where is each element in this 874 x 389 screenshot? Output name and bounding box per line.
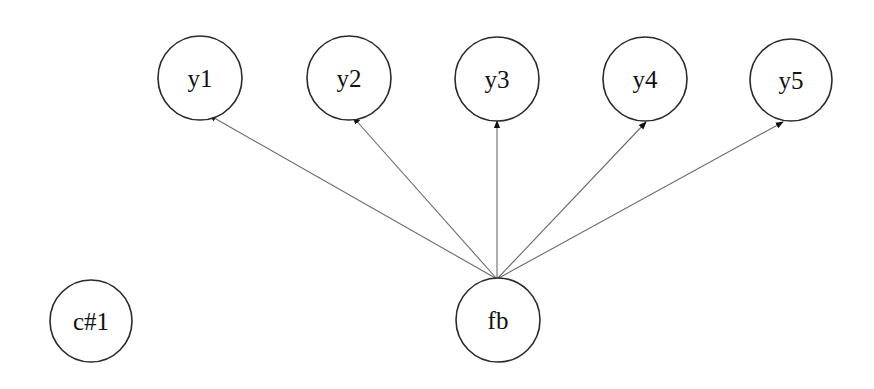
- node-label: fb: [488, 307, 509, 334]
- node-y2: y2: [307, 36, 391, 120]
- node-y4: y4: [603, 37, 687, 121]
- node-label: y4: [633, 66, 659, 93]
- node-fb: fb: [456, 278, 540, 362]
- node-label: c#1: [73, 308, 109, 335]
- node-y5: y5: [750, 39, 832, 121]
- edges-group: [209, 115, 783, 279]
- edge-fb-to-y1: [209, 115, 497, 279]
- node-label: y1: [188, 65, 213, 92]
- nodes-group: y1y2y3y4y5c#1fb: [50, 36, 832, 362]
- node-c1: c#1: [50, 280, 132, 362]
- node-label: y2: [337, 65, 362, 92]
- node-y1: y1: [158, 36, 242, 120]
- edge-fb-to-y2: [353, 117, 497, 279]
- edge-fb-to-y4: [497, 122, 646, 279]
- path-diagram: y1y2y3y4y5c#1fb: [0, 0, 874, 389]
- node-label: y3: [485, 66, 510, 93]
- edge-fb-to-y5: [497, 122, 783, 279]
- node-label: y5: [779, 67, 804, 94]
- node-y3: y3: [455, 37, 539, 121]
